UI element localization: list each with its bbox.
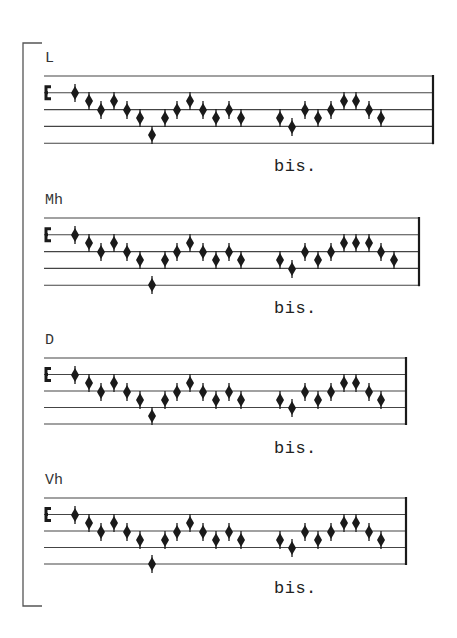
voice-label: Mh: [45, 192, 63, 209]
diamond-note: [276, 111, 284, 125]
diamond-note: [186, 516, 194, 530]
diamond-note: [237, 533, 245, 547]
diamond-note: [136, 533, 144, 547]
diamond-note: [237, 253, 245, 267]
diamond-note: [110, 94, 118, 108]
diamond-note: [161, 253, 169, 267]
diamond-note: [365, 385, 373, 399]
diamond-note: [352, 376, 360, 390]
diamond-note: [225, 103, 233, 117]
diamond-note: [199, 103, 207, 117]
diamond-note: [85, 236, 93, 250]
system-bracket: [23, 43, 42, 606]
diamond-note: [161, 111, 169, 125]
score: [0, 0, 457, 638]
diamond-note: [390, 253, 398, 267]
diamond-note: [71, 86, 79, 100]
diamond-note: [301, 245, 309, 259]
diamond-note: [327, 385, 335, 399]
diamond-note: [186, 376, 194, 390]
repeat-marking: bis.: [274, 579, 317, 598]
diamond-note: [212, 533, 220, 547]
diamond-note: [110, 516, 118, 530]
diamond-note: [97, 525, 105, 539]
diamond-note: [377, 245, 385, 259]
diamond-note: [377, 111, 385, 125]
diamond-note: [276, 253, 284, 267]
diamond-note: [288, 120, 296, 134]
diamond-note: [340, 516, 348, 530]
diamond-note: [352, 516, 360, 530]
diamond-note: [161, 393, 169, 407]
diamond-note: [365, 103, 373, 117]
diamond-note: [352, 236, 360, 250]
diamond-note: [71, 508, 79, 522]
diamond-note: [340, 376, 348, 390]
diamond-note: [173, 385, 181, 399]
diamond-note: [237, 393, 245, 407]
diamond-note: [97, 103, 105, 117]
diamond-note: [136, 393, 144, 407]
diamond-note: [173, 245, 181, 259]
diamond-note: [301, 103, 309, 117]
voice-label: D: [45, 332, 54, 349]
diamond-note: [340, 236, 348, 250]
diamond-note: [85, 516, 93, 530]
diamond-note: [212, 253, 220, 267]
diamond-note: [110, 236, 118, 250]
diamond-note: [301, 385, 309, 399]
diamond-note: [199, 385, 207, 399]
diamond-note: [288, 541, 296, 555]
diamond-note: [212, 393, 220, 407]
voice-label: Vh: [45, 472, 63, 489]
diamond-note: [123, 385, 131, 399]
diamond-note: [123, 245, 131, 259]
diamond-note: [276, 393, 284, 407]
diamond-note: [199, 525, 207, 539]
diamond-note: [314, 253, 322, 267]
repeat-marking: bis.: [274, 299, 317, 318]
diamond-note: [237, 111, 245, 125]
diamond-note: [71, 228, 79, 242]
diamond-note: [148, 128, 156, 142]
diamond-note: [136, 253, 144, 267]
diamond-note: [301, 525, 309, 539]
diamond-note: [327, 245, 335, 259]
diamond-note: [148, 557, 156, 571]
diamond-note: [327, 525, 335, 539]
diamond-note: [276, 533, 284, 547]
repeat-marking: bis.: [274, 157, 317, 176]
diamond-note: [314, 533, 322, 547]
diamond-note: [173, 525, 181, 539]
diamond-note: [377, 393, 385, 407]
diamond-note: [352, 94, 360, 108]
diamond-note: [225, 385, 233, 399]
diamond-note: [85, 94, 93, 108]
diamond-note: [314, 111, 322, 125]
diamond-note: [148, 409, 156, 423]
diamond-note: [288, 401, 296, 415]
diamond-note: [314, 393, 322, 407]
diamond-note: [97, 245, 105, 259]
diamond-note: [173, 103, 181, 117]
diamond-note: [136, 111, 144, 125]
diamond-note: [161, 533, 169, 547]
voice-label: L: [45, 50, 54, 67]
diamond-note: [225, 245, 233, 259]
diamond-note: [288, 262, 296, 276]
diamond-note: [186, 94, 194, 108]
diamond-note: [225, 525, 233, 539]
diamond-note: [85, 376, 93, 390]
diamond-note: [340, 94, 348, 108]
diamond-note: [71, 368, 79, 382]
diamond-note: [110, 376, 118, 390]
diamond-note: [123, 103, 131, 117]
repeat-marking: bis.: [274, 439, 317, 458]
diamond-note: [123, 525, 131, 539]
diamond-note: [365, 236, 373, 250]
diamond-note: [148, 278, 156, 292]
diamond-note: [377, 533, 385, 547]
diamond-note: [212, 111, 220, 125]
diamond-note: [365, 525, 373, 539]
diamond-note: [199, 245, 207, 259]
